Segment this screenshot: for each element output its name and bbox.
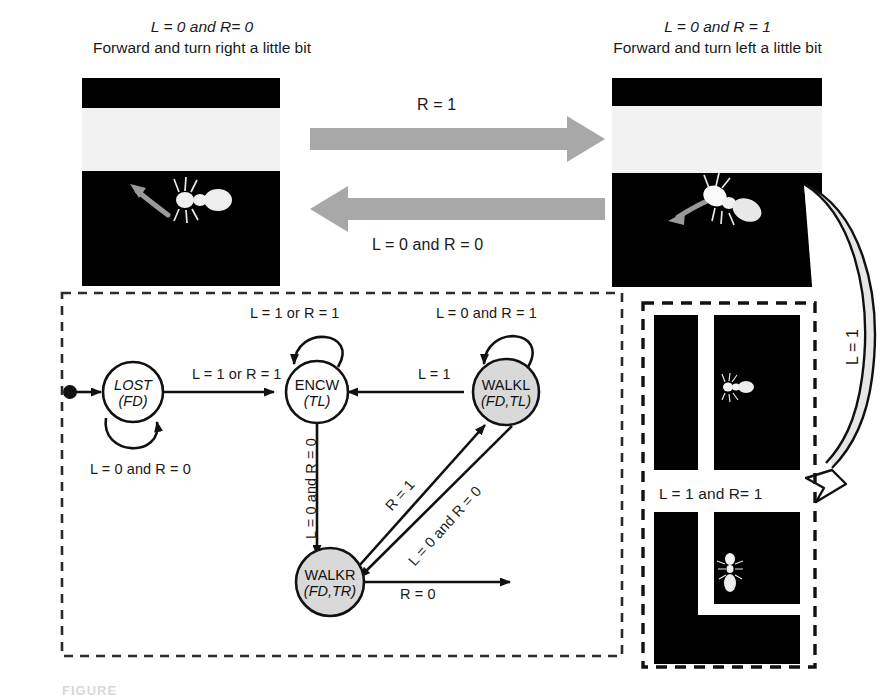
rightward-arrow-label: R = 1 bbox=[417, 96, 456, 114]
ant-corner-photo bbox=[654, 512, 800, 664]
state-name-walkl: WALKL bbox=[482, 377, 531, 393]
ant-corridor-glyph bbox=[654, 315, 800, 473]
transition-label-encw-walkr: L = 0 and R = 0 bbox=[303, 438, 319, 539]
state-label-encw: ENCW (TL) bbox=[277, 377, 357, 409]
transition-label-walkl-self: L = 0 and R = 1 bbox=[436, 305, 537, 321]
transition-label-walkl-encw: L = 1 bbox=[418, 366, 451, 382]
state-actions-lost: (FD) bbox=[119, 393, 148, 409]
transition-label-walkr-out: R = 0 bbox=[400, 586, 436, 602]
leftward-arrow-label: L = 0 and R = 0 bbox=[372, 236, 483, 254]
state-actions-encw: (TL) bbox=[304, 393, 331, 409]
ant-corridor-photo bbox=[654, 315, 800, 473]
top-right-description: Forward and turn left a little bit bbox=[565, 37, 870, 58]
ant-right-glyph-left-photo bbox=[82, 78, 280, 286]
state-label-walkr: WALKR (FD,TR) bbox=[284, 567, 376, 599]
top-left-description: Forward and turn right a little bit bbox=[52, 37, 352, 58]
right-panel-label: L = 1 and R= 1 bbox=[659, 485, 762, 503]
state-actions-walkl: (FD,TL) bbox=[481, 393, 531, 409]
top-left-caption: L = 0 and R= 0 Forward and turn right a … bbox=[52, 16, 352, 58]
transition-label-lost-encw: L = 1 or R = 1 bbox=[192, 366, 282, 382]
curved-arrow-label: L = 1 bbox=[844, 329, 862, 365]
transition-label-encw-self: L = 1 or R = 1 bbox=[250, 305, 340, 321]
state-machine-graph bbox=[58, 291, 638, 671]
top-right-condition: L = 0 and R = 1 bbox=[565, 16, 870, 37]
state-label-lost: LOST (FD) bbox=[93, 377, 173, 409]
ant-corner-glyph bbox=[654, 512, 800, 664]
ant-turning-right-photo bbox=[82, 78, 280, 286]
leftward-gray-arrow bbox=[310, 186, 605, 232]
state-name-lost: LOST bbox=[114, 377, 152, 393]
state-name-encw: ENCW bbox=[295, 377, 339, 393]
state-label-walkl: WALKL (FD,TL) bbox=[460, 377, 552, 409]
state-name-walkr: WALKR bbox=[304, 567, 355, 583]
rightward-gray-arrow bbox=[310, 116, 605, 162]
gray-transition-arrows bbox=[305, 116, 615, 256]
state-actions-walkr: (FD,TR) bbox=[304, 583, 356, 599]
top-left-condition: L = 0 and R= 0 bbox=[52, 16, 352, 37]
figure-caption: FIGURE bbox=[62, 683, 117, 698]
transition-label-lost-self: L = 0 and R = 0 bbox=[90, 461, 191, 477]
top-right-caption: L = 0 and R = 1 Forward and turn left a … bbox=[565, 16, 870, 58]
